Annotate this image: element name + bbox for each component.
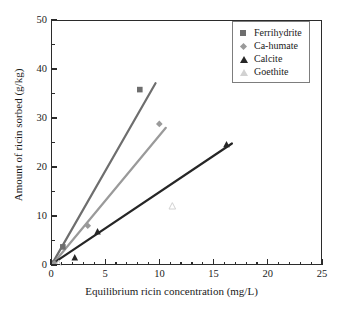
x-major-tick-25 (321, 259, 322, 265)
x-minor-tick-23 (300, 262, 301, 266)
trendline-ca-humate (54, 128, 166, 263)
legend-label: Ca-humate (254, 41, 298, 51)
y-major-tick-0 (51, 264, 57, 265)
trendline-group (53, 83, 232, 263)
chart-figure: 01020304050 0510152025 Equilibrium ricin… (0, 0, 343, 309)
x-major-tick-5 (105, 259, 106, 265)
x-minor-tick-17 (235, 262, 236, 266)
x-minor-tick-22 (289, 262, 290, 266)
legend-label: Calcite (254, 54, 282, 64)
x-tick-label-5: 5 (90, 269, 120, 280)
datapoint-ca-humate (156, 121, 163, 128)
x-minor-tick-7 (126, 262, 127, 266)
legend-item-ferrihydrite[interactable]: Ferrihydrite (238, 26, 302, 39)
y-tick-label-50: 50 (21, 15, 47, 26)
x-minor-tick-3 (83, 262, 84, 266)
marker-group (52, 87, 230, 266)
filled-triangle-marker (238, 53, 249, 64)
x-axis-title: Equilibrium ricin concentration (mg/L) (0, 285, 343, 297)
x-minor-tick-21 (278, 262, 279, 266)
datapoint-calcite (223, 141, 230, 147)
x-tick-label-15: 15 (199, 269, 229, 280)
x-major-tick-10 (159, 259, 160, 265)
y-tick-label-40: 40 (21, 64, 47, 75)
datapoint-goethite (169, 203, 176, 209)
x-tick-label-0: 0 (36, 269, 66, 280)
x-major-tick-0 (50, 259, 51, 265)
filled-triangle-marker-glyph (240, 56, 248, 63)
x-minor-tick-11 (170, 262, 171, 266)
x-minor-tick-18 (246, 262, 247, 266)
y-tick-label-30: 30 (21, 113, 47, 124)
y-tick-label-20: 20 (21, 162, 47, 173)
x-minor-tick-2 (72, 262, 73, 266)
x-minor-tick-12 (180, 262, 181, 266)
x-minor-tick-4 (94, 262, 95, 266)
filled-diamond-marker (238, 40, 249, 51)
legend-item-ca-humate[interactable]: Ca-humate (238, 39, 302, 52)
y-minor-tick-15 (51, 191, 55, 192)
x-minor-tick-19 (256, 262, 257, 266)
x-minor-tick-16 (224, 262, 225, 266)
open-triangle-marker-glyph (240, 69, 248, 76)
x-major-tick-15 (213, 259, 214, 265)
y-minor-tick-35 (51, 93, 55, 94)
x-minor-tick-6 (115, 262, 116, 266)
y-minor-tick-25 (51, 142, 55, 143)
y-minor-tick-45 (51, 44, 55, 45)
y-major-tick-50 (51, 19, 57, 20)
x-minor-tick-14 (202, 262, 203, 266)
legend-label: Goethite (254, 67, 288, 77)
trendline-calcite (54, 144, 232, 263)
x-minor-tick-24 (311, 262, 312, 266)
x-tick-label-10: 10 (144, 269, 174, 280)
x-tick-label-20: 20 (253, 269, 283, 280)
y-major-tick-30 (51, 117, 57, 118)
x-tick-label-25: 25 (307, 269, 337, 280)
filled-diamond-marker-glyph (239, 42, 246, 49)
x-minor-tick-1 (61, 262, 62, 266)
y-major-tick-10 (51, 215, 57, 216)
legend-label: Ferrihydrite (254, 28, 302, 38)
legend-item-calcite[interactable]: Calcite (238, 52, 302, 65)
y-tick-label-10: 10 (21, 211, 47, 222)
x-minor-tick-8 (137, 262, 138, 266)
datapoint-ferrihydrite (137, 87, 143, 93)
x-minor-tick-9 (148, 262, 149, 266)
y-major-tick-40 (51, 68, 57, 69)
filled-square-marker (238, 27, 249, 38)
y-major-tick-20 (51, 166, 57, 167)
legend-item-goethite[interactable]: Goethite (238, 65, 302, 78)
open-triangle-marker (238, 66, 249, 77)
y-minor-tick-5 (51, 240, 55, 241)
x-major-tick-20 (267, 259, 268, 265)
trendline-ferrihydrite (53, 83, 155, 262)
x-minor-tick-13 (191, 262, 192, 266)
datapoint-calcite (71, 254, 78, 260)
y-axis-title: Amount of ricin sorbed (g/kg) (12, 35, 24, 235)
chart-legend: FerrihydriteCa-humateCalciteGoethite (232, 21, 310, 83)
datapoint-ferrihydrite (60, 244, 66, 250)
filled-square-marker-glyph (240, 30, 246, 36)
